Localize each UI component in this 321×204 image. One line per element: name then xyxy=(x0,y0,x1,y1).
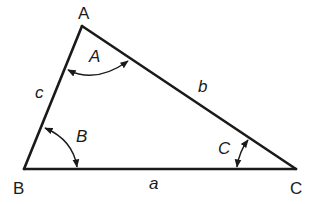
vertex-c-label: C xyxy=(290,179,302,198)
side-c-label: c xyxy=(35,83,44,102)
angle-c-label: C xyxy=(218,139,231,158)
angle-b-label: B xyxy=(76,127,87,146)
angle-b-arc xyxy=(45,128,77,167)
triangle-svg: A B C c b a A B C xyxy=(0,0,321,204)
angle-c-arc xyxy=(237,140,248,167)
side-b-line xyxy=(82,26,296,169)
side-b-label: b xyxy=(198,77,207,96)
vertex-a-label: A xyxy=(78,4,90,23)
vertex-b-label: B xyxy=(13,179,24,198)
side-a-label: a xyxy=(149,174,158,193)
side-c-line xyxy=(24,26,82,169)
angle-a-label: A xyxy=(88,47,100,66)
triangle-diagram: A B C c b a A B C xyxy=(0,0,321,204)
